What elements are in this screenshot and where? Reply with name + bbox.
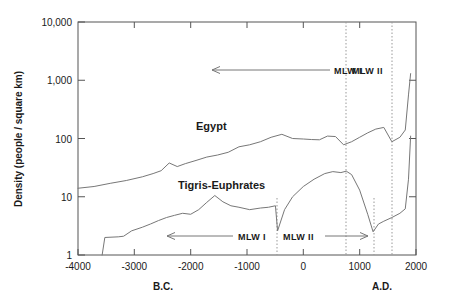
y-tick-labels: 10,000 1,000 100 10 1 — [41, 17, 72, 261]
x-tick-label-0: 0 — [301, 261, 307, 272]
series-line-egypt — [78, 74, 411, 189]
y-axis-ticks — [78, 22, 416, 255]
series-label-tigris-euphrates: Tigris-Euphrates — [178, 179, 265, 191]
mlw2-lower-arrow — [325, 233, 368, 240]
mlw1-upper-arrow — [212, 67, 330, 74]
y-axis-title: Density (people / square km) — [13, 71, 24, 207]
y-tick-label-10000: 10,000 — [41, 17, 72, 28]
x-tick-label--1000: -1000 — [234, 261, 260, 272]
x-tick-labels: -4000 -3000 -2000 -1000 0 1000 2000 — [65, 261, 427, 272]
x-axis-ticks — [78, 22, 416, 255]
density-chart-figure: 10,000 1,000 100 10 1 Density (people / … — [0, 0, 450, 306]
x-tick-label--4000: -4000 — [65, 261, 91, 272]
series-label-egypt: Egypt — [196, 120, 227, 132]
plot-frame — [78, 22, 416, 255]
mlw2-lower-label: MLW II — [283, 232, 314, 242]
chart-svg: 10,000 1,000 100 10 1 Density (people / … — [0, 0, 450, 306]
x-tick-label--3000: -3000 — [122, 261, 148, 272]
x-tick-label-1000: 1000 — [349, 261, 372, 272]
x-axis-label-ad: A.D. — [372, 281, 392, 292]
mlw1-lower-label: MLW I — [238, 232, 266, 242]
x-tick-label--2000: -2000 — [178, 261, 204, 272]
y-tick-label-1: 1 — [66, 250, 72, 261]
y-tick-label-10: 10 — [61, 192, 73, 203]
mlw2-upper-label: MLW II — [352, 66, 383, 76]
y-tick-label-100: 100 — [55, 134, 72, 145]
x-tick-label-2000: 2000 — [405, 261, 428, 272]
y-tick-label-1000: 1,000 — [47, 75, 72, 86]
mlw1-lower-arrow — [167, 233, 233, 240]
x-axis-label-bc: B.C. — [153, 281, 173, 292]
